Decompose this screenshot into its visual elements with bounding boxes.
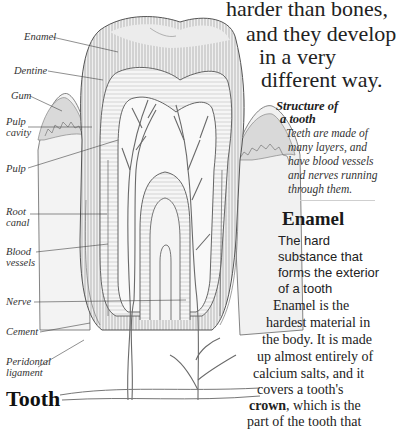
- label-blood-vessels: Blood vessels: [6, 246, 35, 268]
- body-line-8: part of the tooth that: [247, 413, 361, 431]
- label-pulp: Pulp: [6, 163, 26, 174]
- caption-title-line-2: a tooth: [276, 113, 376, 126]
- definition-line-2: substance that: [278, 249, 379, 265]
- body-line-4: up almost entirely of: [257, 348, 373, 366]
- crown-term: crown: [249, 398, 286, 413]
- entry-heading: Enamel: [282, 208, 344, 230]
- label-gum: Gum: [11, 90, 31, 101]
- caption-body-line-4: and nerves running: [276, 168, 376, 182]
- label-pulp-cavity: Pulp cavity: [6, 116, 31, 138]
- body-line-5: calcium salts, and it: [253, 365, 364, 383]
- caption-body-line-5: through them.: [276, 182, 376, 196]
- label-blood-vessels-line-1: Blood: [6, 246, 35, 257]
- definition-line-1: The hard: [278, 233, 379, 249]
- caption-body-line-2: many layers, and: [276, 140, 376, 154]
- entry-definition: The hard substance that forms the exteri…: [278, 233, 379, 297]
- label-periodontal-line-1: Peridontal: [6, 356, 51, 367]
- section-divider: [300, 200, 375, 201]
- label-pulp-cavity-line-2: cavity: [6, 127, 31, 138]
- body-line-6: covers a tooth's: [257, 381, 344, 399]
- definition-line-4: of a tooth: [278, 281, 379, 297]
- label-root-canal: Root canal: [6, 206, 29, 228]
- caption-body-line-3: have blood vessels: [276, 154, 376, 168]
- label-root-canal-line-1: Root: [6, 206, 29, 217]
- body-line-2: hardest material in: [266, 314, 370, 332]
- label-root-canal-line-2: canal: [6, 217, 29, 228]
- label-blood-vessels-line-2: vessels: [6, 257, 35, 268]
- caption: Structure of a tooth Teeth are made of m…: [276, 100, 376, 196]
- body-line-7: crown, which is the: [249, 397, 361, 415]
- body-line-1: Enamel is the: [273, 297, 349, 315]
- label-periodontal-line-2: ligament: [6, 367, 51, 378]
- tooth-heading: Tooth: [6, 386, 60, 412]
- crown-rest: , which is the: [286, 398, 361, 413]
- label-nerve: Nerve: [6, 296, 31, 307]
- label-pulp-cavity-line-1: Pulp: [6, 116, 31, 127]
- label-periodontal-ligament: Peridontal ligament: [6, 356, 51, 378]
- caption-body-line-1: Teeth are made of: [276, 126, 376, 140]
- label-dentine: Dentine: [14, 65, 47, 76]
- label-enamel: Enamel: [24, 31, 56, 42]
- body-line-3: the body. It is made: [262, 331, 372, 349]
- label-cement: Cement: [6, 326, 38, 337]
- definition-line-3: forms the exterior: [278, 265, 379, 281]
